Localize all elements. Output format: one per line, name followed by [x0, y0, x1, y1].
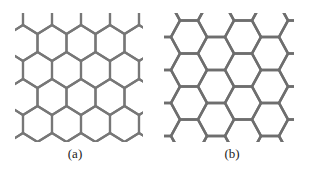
hexagon-cell — [171, 153, 207, 174]
hexagon-cell — [306, 37, 310, 70]
hexagon-cell — [0, 25, 9, 61]
hexagon-cell — [306, 4, 310, 37]
hexagon-cell — [139, 160, 155, 173]
hexagon-cell — [279, 54, 310, 87]
panel-a-caption: (a) — [55, 146, 95, 162]
hexagon-cell — [155, 0, 180, 4]
panel-a-pointy-top-hex-lattice: (a) — [0, 0, 155, 173]
hexagon-cell — [125, 79, 154, 115]
hexagon-cell — [38, 0, 67, 7]
hexagon-cell — [198, 0, 234, 4]
hexagon-cell — [155, 70, 180, 103]
hexagon-cell — [67, 0, 96, 7]
hexagon-cell — [0, 133, 9, 169]
hexagon-cell — [139, 52, 155, 88]
hexagon-cell — [171, 0, 207, 21]
hexagon-cell — [155, 37, 180, 70]
hexagon-cell — [96, 133, 125, 169]
hexagon-cell — [125, 0, 154, 7]
hexagon-cell — [306, 136, 310, 169]
hexagon-cell — [9, 133, 38, 169]
hexagon-cell — [155, 4, 180, 37]
hexagon-cell — [279, 87, 310, 120]
hexagon-cell — [306, 0, 310, 4]
hexagon-cell — [9, 0, 38, 7]
hexagon-cell — [155, 103, 180, 136]
panel-b-flat-top-hex-lattice: (b) — [155, 0, 310, 173]
hexagon-cell — [155, 136, 180, 169]
hexagon-cell — [125, 25, 154, 61]
hexagon-cell — [279, 21, 310, 54]
hexagon-cell — [0, 106, 23, 142]
hexagon-cell — [0, 52, 23, 88]
hexagon-cell — [139, 106, 155, 142]
hexagon-cell — [0, 160, 23, 173]
hexagon-cell — [96, 0, 125, 7]
hexagon-cell — [279, 153, 310, 174]
hexagon-cell — [0, 0, 23, 34]
hexagon-cell — [225, 0, 261, 21]
panel-b-caption: (b) — [212, 146, 252, 162]
hexagon-cell — [279, 120, 310, 153]
hexagon-cell — [0, 0, 9, 7]
hexagon-cell — [125, 133, 154, 169]
hexagon-cell — [279, 0, 310, 21]
hexagon-cell — [23, 160, 52, 173]
hexagon-cell — [252, 0, 288, 4]
hexagon-cell — [306, 70, 310, 103]
hexagon-cell — [139, 0, 155, 34]
hexagon-cell — [110, 160, 139, 173]
hexagon-cell — [306, 103, 310, 136]
hexagon-cell — [0, 79, 9, 115]
